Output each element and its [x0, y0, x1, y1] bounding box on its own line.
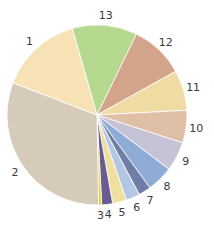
slice-label-7: 7: [146, 194, 153, 207]
slice-label-8: 8: [164, 180, 171, 193]
slice-label-9: 9: [182, 155, 189, 168]
pie-chart: 13121110987654321: [0, 0, 214, 229]
slice-label-11: 11: [186, 81, 200, 94]
pie-slices: [7, 25, 187, 205]
slice-label-6: 6: [133, 201, 140, 214]
slice-label-1: 1: [26, 35, 33, 48]
slice-label-12: 12: [159, 36, 173, 49]
slice-label-2: 2: [12, 166, 19, 179]
slice-label-4: 4: [105, 208, 112, 221]
slice-label-10: 10: [189, 122, 203, 135]
slice-label-5: 5: [119, 206, 126, 219]
slice-label-13: 13: [99, 9, 113, 22]
slice-label-3: 3: [97, 209, 104, 222]
